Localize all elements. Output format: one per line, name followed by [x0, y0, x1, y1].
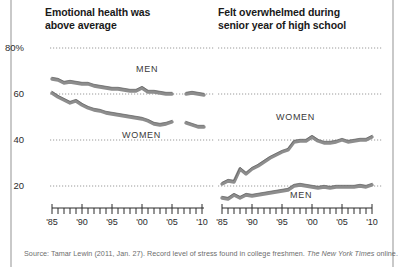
series-label-women-left: WOMEN	[122, 130, 161, 140]
x-tick-1990: '90	[76, 217, 88, 227]
chart-svg-left	[24, 0, 214, 240]
figure-two-panel-line-chart: Emotional health was above average	[0, 0, 405, 267]
x-tick-2000: '00	[136, 217, 148, 227]
x-tick-2005: '05	[166, 217, 178, 227]
x-tick-2005: '05	[336, 217, 348, 227]
x-axis-labels-left: '85 '90 '95 '00 '05 '10	[24, 217, 214, 237]
plot-area-left	[24, 0, 214, 240]
x-tick-1985: '85	[46, 217, 58, 227]
series-label-men-left: MEN	[136, 64, 158, 74]
x-axis-right	[222, 204, 372, 214]
x-tick-2010: '10	[196, 217, 208, 227]
y-tick-20: 20	[0, 181, 24, 191]
source-caption: Source: Tamar Lewin (2011, Jan. 27). Rec…	[24, 249, 392, 258]
panel-emotional-health: Emotional health was above average	[24, 0, 214, 240]
series-label-men-right: MEN	[290, 190, 312, 200]
series-label-women-right: WOMEN	[276, 112, 315, 122]
x-axis-labels-right: '85 '90 '95 '00 '05 '10	[214, 217, 392, 237]
y-tick-80: 80%	[0, 43, 24, 53]
x-tick-2010: '10	[366, 217, 378, 227]
source-journal-name: The New York Times	[307, 249, 374, 258]
series-line-women-left	[52, 93, 204, 127]
y-tick-40: 40	[0, 135, 24, 145]
series-line-women-right	[222, 137, 372, 184]
series-outline-women-left	[52, 91, 204, 125]
panel-felt-overwhelmed: Felt overwhelmed during senior year of h…	[214, 0, 392, 240]
source-prefix: Source: Tamar Lewin (2011, Jan. 27). Rec…	[24, 249, 307, 258]
x-tick-1990: '90	[246, 217, 258, 227]
x-axis-left	[52, 204, 204, 214]
x-tick-1995: '95	[276, 217, 288, 227]
x-tick-1985: '85	[216, 217, 228, 227]
y-tick-60: 60	[0, 89, 24, 99]
x-tick-1995: '95	[106, 217, 118, 227]
source-suffix: online.	[374, 249, 398, 258]
x-tick-2000: '00	[306, 217, 318, 227]
